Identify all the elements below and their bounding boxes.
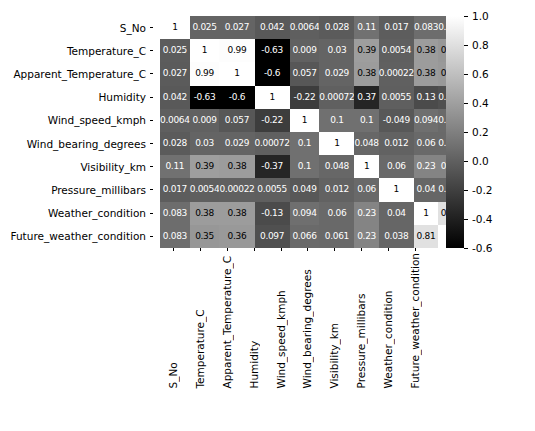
heatmap-cell-value: 0.0054 [190,185,220,194]
heatmap-cell: 0.029 [219,132,254,155]
heatmap-cell: -0.63 [190,86,220,109]
heatmap-cell: -0.6 [255,62,290,85]
heatmap-cell-value: 0.81 [417,232,436,241]
y-tick-label-text: S_No [120,22,146,34]
x-tick-label-text: Wind_bearing_degrees [301,253,313,389]
x-tick-label: Visibility_km [321,248,348,389]
heatmap-cell-value: 0.048 [354,139,378,148]
heatmap-cell-value: 0.017 [163,185,187,194]
heatmap-cell: 0.1 [319,109,354,132]
heatmap-cell: 1 [414,202,438,225]
heatmap-cell: 0.99 [190,62,220,85]
heatmap-cell: 0.23 [414,155,438,178]
y-tick-label: Wind_bearing_degrees [0,132,153,155]
x-tick-mark [254,248,255,251]
heatmap-cell: 0.06 [354,178,378,201]
heatmap-cell: 0.049 [290,178,320,201]
heatmap-cell-value: 0.028 [163,139,187,148]
heatmap-cell: 0.0055 [255,178,290,201]
y-tick-mark [150,97,153,98]
colorbar-tick: 1.0 [464,10,489,22]
heatmap-cell: 0.038 [379,225,414,248]
colorbar-tick: 0.8 [464,39,489,51]
heatmap-cell: 0.38 [219,155,254,178]
heatmap-cell-value: 0.1 [360,116,373,125]
heatmap-cell-value: -0.6 [264,69,280,78]
x-tick-label: Wind_bearing_degrees [294,248,321,389]
heatmap-cell-value: 0.094 [414,116,438,125]
heatmap-cell: 0.0064 [290,16,320,39]
heatmap-cell-value: 0.028 [325,23,349,32]
colorbar-tick: -0.4 [464,213,493,225]
heatmap-cell-value: -0.63 [261,46,283,55]
heatmap-cell-value: 0.00022 [219,185,254,194]
y-tick-label: Humidity [0,86,153,109]
x-tick-label-text: S_No [167,253,179,389]
heatmap-cell: 1 [290,109,320,132]
heatmap-cell-value: 0.0055 [381,93,411,102]
y-tick-label-text: Wind_speed_kmph [48,114,146,126]
colorbar-tick: -0.6 [464,242,493,254]
x-tick-label: Pressure_millibars [348,248,375,389]
colorbar-tick: 0.4 [464,97,489,109]
x-tick-label-text: Visibility_km [328,253,340,389]
colorbar-tick-mark [464,248,468,249]
colorbar-tick-label: -0.2 [472,184,493,196]
heatmap-cell-value: 0.03 [328,46,347,55]
heatmap-cell: 0.083 [160,202,190,225]
heatmap-cell-value: 0.027 [225,23,249,32]
heatmap-cell-value: 0.38 [228,209,247,218]
y-tick-mark [150,213,153,214]
x-tick-label-text: Wind_speed_kmph [275,253,287,389]
heatmap-cell: 0.083 [160,225,190,248]
heatmap-cell: 0.094 [414,109,438,132]
x-tick-label-text: Apparent_Temperature_C [221,253,233,389]
heatmap-cell-value: 0.1 [298,162,311,171]
heatmap-cell-value: 0.042 [260,23,284,32]
heatmap-cell-value: 0.012 [325,185,349,194]
heatmap-cell-value: 0.39 [195,162,214,171]
colorbar-tick-mark [464,190,468,191]
colorbar-tick-label: 1.0 [472,10,489,22]
heatmap-cell-value: 0.061 [325,232,349,241]
colorbar-tick-label: 0.4 [472,97,489,109]
heatmap-cell-value: -0.37 [261,162,283,171]
heatmap-cell-value: 0.36 [228,232,247,241]
colorbar-tick-mark [464,16,468,17]
heatmap-cell-value: 0.083 [163,209,187,218]
colorbar-tick-label: -0.4 [472,213,493,225]
colorbar-gradient [446,16,464,248]
colorbar-tick-label: -0.6 [472,242,493,254]
heatmap-cell: 1 [379,178,414,201]
heatmap-cell-value: 1 [269,93,274,102]
heatmap-cell: 0.39 [190,155,220,178]
heatmap-cell: 0.057 [290,62,320,85]
heatmap-cell-value: 0.0054 [381,46,411,55]
heatmap-cell: 0.042 [255,16,290,39]
heatmap-cell: 0.025 [160,39,190,62]
y-axis-tick-labels: S_NoTemperature_CApparent_Temperature_CH… [0,16,153,248]
heatmap-cell: 0.0054 [379,39,414,62]
heatmap-cell-value: 0.38 [357,69,376,78]
y-tick-label: Wind_speed_kmph [0,109,153,132]
heatmap-cell: 0.1 [354,109,378,132]
heatmap-cell-value: 0.06 [357,185,376,194]
heatmap-cell-value: 1 [302,116,307,125]
x-tick-label-text: Humidity [248,253,260,389]
heatmap-cell-value: 0.37 [357,93,376,102]
y-tick-label: S_No [0,16,153,39]
x-tick-mark [388,248,389,251]
heatmap-cell-value: 0.009 [292,46,316,55]
colorbar-tick-mark [464,132,468,133]
heatmap-cell-value: 0.13 [417,93,436,102]
heatmap-cell: 0.029 [319,62,354,85]
colorbar-tick-mark [464,161,468,162]
heatmap-cell-value: 0.049 [292,185,316,194]
heatmap-cell-value: 0.038 [384,232,408,241]
x-tick-label: Humidity [240,248,267,389]
heatmap-cell-value: -0.13 [261,209,283,218]
heatmap-cell: 0.009 [190,109,220,132]
heatmap-cell: 0.38 [414,39,438,62]
heatmap-cell-value: 0.083 [163,232,187,241]
heatmap-cell-value: 0.38 [417,46,436,55]
